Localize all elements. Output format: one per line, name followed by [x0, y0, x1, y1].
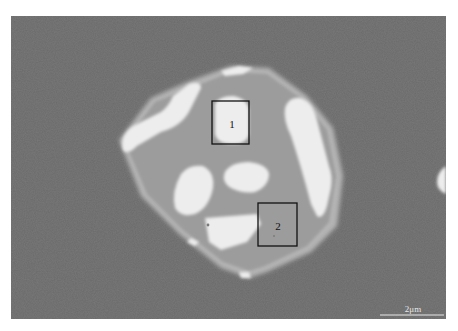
dark-speck: [207, 224, 210, 227]
bright-phase-bottom: [239, 272, 251, 278]
region-label-2: 2: [275, 220, 281, 232]
scale-bar-label: 2μm: [405, 304, 421, 314]
sem-micrograph: 1 2 2μm: [11, 16, 446, 319]
dark-speck: [273, 235, 275, 237]
region-label-1: 1: [229, 118, 235, 130]
